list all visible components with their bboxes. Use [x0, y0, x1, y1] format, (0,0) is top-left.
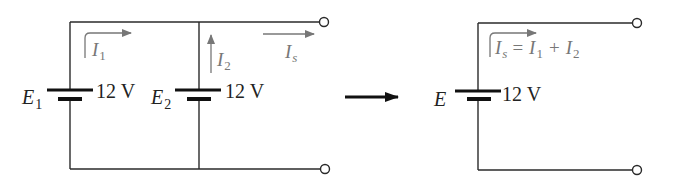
- battery-e1-icon: [47, 90, 93, 99]
- battery-e-icon: [455, 91, 501, 99]
- current-equation-label: Is=I1+I2: [494, 37, 579, 61]
- e1-label: E1: [21, 86, 42, 112]
- right-equivalent-circuit: E 12 V Is=I1+I2: [433, 19, 642, 175]
- e1-voltage-label: 12 V: [96, 80, 136, 102]
- left-bottom-terminal: [321, 165, 330, 174]
- current-i1-label: I1: [91, 39, 106, 63]
- battery-e2-icon: [175, 90, 221, 99]
- e2-label: E2: [150, 86, 171, 112]
- e2-voltage-label: 12 V: [225, 80, 265, 102]
- e-voltage-label: 12 V: [502, 83, 542, 105]
- current-i2-label: I2: [216, 49, 231, 73]
- e-label: E: [433, 88, 446, 110]
- right-top-terminal: [633, 19, 642, 28]
- left-parallel-circuit: E1 12 V E2 12 V I1 I2 Is: [21, 18, 330, 174]
- current-is-label: Is: [284, 41, 297, 65]
- right-bottom-terminal: [633, 166, 642, 175]
- left-top-terminal: [320, 18, 329, 27]
- circuit-diagram: E1 12 V E2 12 V I1 I2 Is E: [0, 0, 673, 191]
